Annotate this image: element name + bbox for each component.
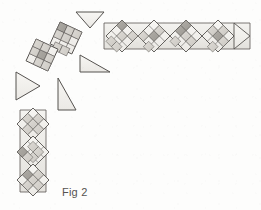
loose-triangle-left — [16, 72, 40, 100]
loose-triangle-lower — [58, 78, 76, 110]
figure-caption: Fig 2 — [62, 186, 87, 198]
loose-triangle-middle — [80, 55, 110, 72]
loose-triangle-top — [76, 12, 104, 28]
figure-container: Fig 2 — [0, 0, 261, 210]
horizontal-band — [104, 20, 250, 52]
figure-illustration — [0, 0, 261, 210]
vertical-band — [17, 108, 49, 196]
